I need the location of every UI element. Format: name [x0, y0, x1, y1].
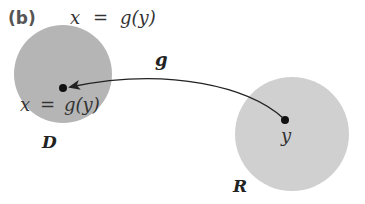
- title-equation-eq: =: [93, 7, 108, 28]
- domain-set-label: D: [41, 132, 57, 152]
- domain-point-label-lhs: x: [20, 94, 30, 115]
- title-equation-lhs: x: [70, 7, 80, 28]
- domain-point-dot: [59, 84, 67, 92]
- domain-point-label-eq: =: [40, 94, 55, 115]
- domain-point-label-rhs: g(y): [64, 94, 100, 115]
- range-point-label: y: [280, 125, 292, 146]
- range-set-disc: [235, 77, 349, 191]
- title-equation-rhs: g(y): [120, 7, 156, 28]
- inverse-mapping-diagram: (b) x = g(y) x = g(y) D y R g: [0, 0, 365, 204]
- mapping-label: g: [155, 49, 168, 70]
- range-set-label: R: [232, 176, 247, 196]
- panel-label: (b): [8, 8, 36, 28]
